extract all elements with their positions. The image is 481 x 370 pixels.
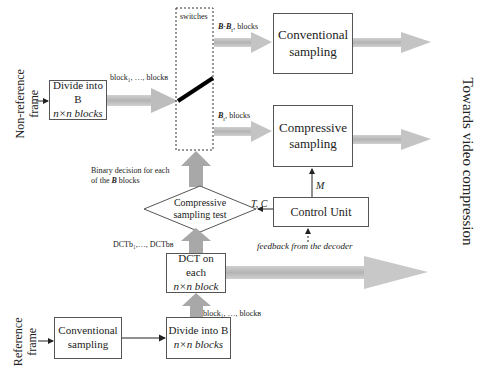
fat-arrow-blocks-to-switch: [107, 88, 178, 113]
fat-arrow-to-conventional: [214, 32, 272, 53]
br-blocks-label: Br, blocks: [218, 111, 250, 123]
non-reference-frame-label: Non-reference frame: [14, 64, 42, 144]
fat-arrow-compressive-out: [352, 129, 431, 150]
binary-decision-label: Binary decision for each of the B blocks: [91, 166, 169, 185]
bb-blocks-label: B-Br, blocks: [218, 22, 258, 34]
cs-test-label: Compressive sampling test: [160, 194, 240, 224]
compressive-sampling-box: Compressive sampling: [273, 105, 353, 167]
fat-arrow-to-compressive: [214, 121, 272, 142]
switches-label: switches: [180, 12, 208, 22]
reference-frame-label: Reference frame: [12, 312, 40, 370]
blocks-top-label: block₁, …, blockʙ: [110, 73, 168, 83]
fat-arrow-decision-to-switch: [181, 151, 211, 187]
switch-bar: [178, 78, 213, 101]
switches-box: [176, 8, 213, 150]
feedback-label: feedback from the decoder: [257, 241, 352, 252]
fat-arrow-conventional-out: [352, 32, 431, 53]
conventional-sampling-bottom-box: Conventional sampling: [54, 317, 122, 359]
fat-arrow-dct-out: [225, 256, 428, 289]
towards-video-compression-label: Towards video compression: [459, 72, 476, 252]
conventional-sampling-top-box: Conventional sampling: [273, 13, 353, 74]
dct-list-label: DCTb₁,…, DCTbʙ: [113, 240, 174, 250]
divide-into-blocks-bottom-box: Divide into B n×n blocks: [166, 317, 231, 359]
m-label: M: [316, 180, 324, 192]
blocks-bottom-label: block₁, …, blockʙ: [203, 309, 261, 319]
divide-into-blocks-top-box: Divide into B n×n blocks: [49, 80, 107, 120]
control-unit-box: Control Unit: [273, 197, 369, 227]
fat-arrow-dct-to-test: [181, 228, 211, 254]
dct-box: DCT on each n×n block: [166, 253, 226, 293]
tc-label: T, C: [251, 198, 268, 210]
